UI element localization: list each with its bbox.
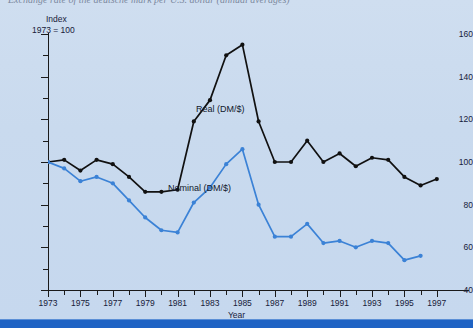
data-point-marker	[289, 235, 293, 239]
x-axis-tick-label: 1983	[195, 298, 225, 308]
data-point-marker	[305, 139, 309, 143]
data-point-marker	[386, 158, 390, 162]
line-chart: Index 1973 = 100 406080100120140160 1973…	[0, 0, 473, 319]
x-axis-tick-label: 1979	[130, 298, 160, 308]
x-axis-tick-label: 1985	[227, 298, 257, 308]
series-line	[48, 45, 437, 192]
data-point-marker	[321, 160, 325, 164]
data-point-marker	[62, 158, 66, 162]
x-axis-tick-minor	[64, 291, 65, 295]
data-point-marker	[95, 158, 99, 162]
data-point-marker	[419, 183, 423, 187]
y-axis-title-line1: Index	[32, 14, 75, 25]
x-axis-tick-minor	[129, 291, 130, 295]
x-axis-tick-label: 1989	[292, 298, 322, 308]
series-label-nominal: Nominal (DM/$)	[168, 183, 231, 193]
data-point-marker	[78, 179, 82, 183]
plot-area	[48, 34, 469, 290]
data-point-marker	[159, 190, 163, 194]
x-axis-tick-major	[404, 291, 405, 297]
data-point-marker	[143, 190, 147, 194]
y-axis-tick-major	[41, 247, 48, 248]
data-point-marker	[289, 160, 293, 164]
data-point-marker	[192, 200, 196, 204]
x-axis-tick-major	[372, 291, 373, 297]
x-axis-tick-label: 1991	[325, 298, 355, 308]
data-point-marker	[354, 245, 358, 249]
data-point-marker	[208, 98, 212, 102]
x-axis-tick-major	[48, 291, 49, 297]
footer-bar	[0, 319, 473, 328]
y-axis-tick-major	[41, 205, 48, 206]
x-axis-tick-major	[80, 291, 81, 297]
data-point-marker	[111, 181, 115, 185]
data-point-marker	[402, 175, 406, 179]
x-axis-tick-major	[275, 291, 276, 297]
x-axis-tick-minor	[421, 291, 422, 295]
x-axis-tick-minor	[161, 291, 162, 295]
x-axis-tick-minor	[356, 291, 357, 295]
y-axis-tick-major	[41, 290, 48, 291]
data-point-marker	[273, 160, 277, 164]
data-point-marker	[240, 147, 244, 151]
data-point-marker	[370, 239, 374, 243]
data-point-marker	[192, 119, 196, 123]
x-axis-tick-minor	[226, 291, 227, 295]
x-axis-tick-major	[145, 291, 146, 297]
x-axis-tick-minor	[97, 291, 98, 295]
data-point-marker	[127, 198, 131, 202]
data-point-marker	[78, 168, 82, 172]
x-axis-tick-label: 1975	[65, 298, 95, 308]
series-nominal	[48, 147, 423, 262]
data-point-marker	[370, 156, 374, 160]
data-point-marker	[224, 53, 228, 57]
y-axis-tick-major	[41, 77, 48, 78]
data-point-marker	[143, 215, 147, 219]
x-axis-tick-minor	[259, 291, 260, 295]
x-axis-tick-minor	[194, 291, 195, 295]
y-axis-tick-major	[41, 119, 48, 120]
x-axis-tick-minor	[291, 291, 292, 295]
x-axis-tick-label: 1995	[389, 298, 419, 308]
data-point-marker	[338, 239, 342, 243]
data-point-marker	[273, 235, 277, 239]
data-point-marker	[257, 119, 261, 123]
data-point-marker	[338, 151, 342, 155]
x-axis-tick-major	[178, 291, 179, 297]
data-point-marker	[321, 241, 325, 245]
x-axis-tick-major	[340, 291, 341, 297]
data-point-marker	[305, 222, 309, 226]
data-point-marker	[354, 164, 358, 168]
data-point-marker	[95, 175, 99, 179]
x-axis-tick-minor	[323, 291, 324, 295]
series-real	[48, 43, 439, 194]
data-point-marker	[224, 162, 228, 166]
data-point-marker	[402, 258, 406, 262]
y-axis-title: Index 1973 = 100	[32, 14, 75, 35]
data-point-marker	[386, 241, 390, 245]
data-point-marker	[419, 254, 423, 258]
x-axis-tick-label: 1987	[260, 298, 290, 308]
series-label-real: Real (DM/$)	[196, 104, 245, 114]
x-axis-tick-major	[113, 291, 114, 297]
x-axis-tick-major	[242, 291, 243, 297]
data-point-marker	[111, 162, 115, 166]
data-point-marker	[257, 203, 261, 207]
x-axis-tick-minor	[388, 291, 389, 295]
x-axis-tick-label: 1993	[357, 298, 387, 308]
data-point-marker	[240, 43, 244, 47]
x-axis-tick-label: 1973	[33, 298, 63, 308]
x-axis-tick-label: 1981	[163, 298, 193, 308]
data-point-marker	[159, 228, 163, 232]
y-axis-tick-major	[41, 162, 48, 163]
y-axis-tick-major	[41, 34, 48, 35]
x-axis-tick-label: 1977	[98, 298, 128, 308]
data-point-marker	[176, 230, 180, 234]
chart-page: Exchange rate of the deutsche mark per U…	[0, 0, 473, 328]
data-point-marker	[435, 177, 439, 181]
series-line	[48, 149, 421, 260]
x-axis-tick-major	[210, 291, 211, 297]
x-axis-tick-label: 1997	[422, 298, 452, 308]
x-axis-tick-major	[437, 291, 438, 297]
x-axis-tick-major	[307, 291, 308, 297]
